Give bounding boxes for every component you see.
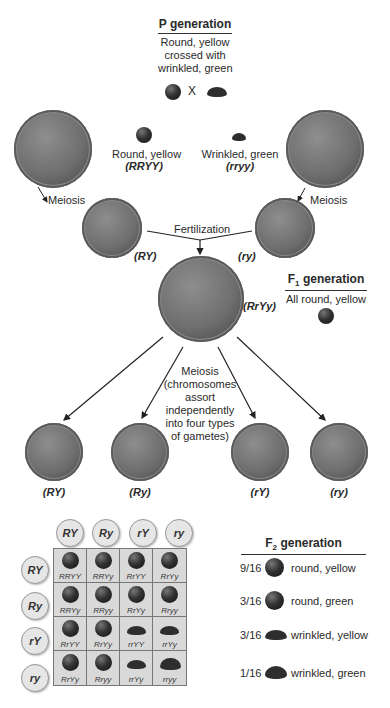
cell-genotype: RRYy	[54, 606, 86, 615]
gamete-label-1: (RY)	[42, 486, 66, 499]
meiosis2-line1: Meiosis	[160, 365, 240, 378]
punnett-square: RRYY RRYy RrYY RrYy RRYy RRyy RrYy Rryy …	[53, 548, 187, 686]
punnett-cell: RrYY	[120, 549, 153, 583]
cell-genotype: RrYY	[120, 572, 152, 581]
f1-heading-rest: generation	[300, 272, 365, 286]
round-pea-icon	[128, 552, 145, 569]
f2-phenotype: round, yellow	[291, 562, 356, 575]
punnett-cell: Rryy	[153, 583, 186, 617]
punnett-cell: RrYy	[87, 617, 120, 651]
round-pea-icon	[265, 591, 284, 610]
punnett-cell: RRYY	[54, 549, 87, 583]
cell-genotype: RrYy	[54, 675, 86, 684]
cell-genotype: RrYY	[54, 640, 86, 649]
punnett-cell: rrYy	[153, 617, 186, 651]
zygote-cell-icon	[158, 256, 244, 342]
wrinkled-pea-icon	[265, 666, 287, 679]
gamete-ry-cell-icon	[310, 423, 368, 481]
punnett-row-header: RY	[21, 556, 49, 584]
round-pea-icon	[128, 586, 145, 603]
round-pea-icon	[62, 654, 79, 671]
f2-heading-rest: generation	[277, 536, 342, 550]
meiosis-left-label: Meiosis	[48, 194, 85, 207]
f2-generation-block: F2 generation	[241, 536, 366, 555]
cell-genotype: RrYy	[120, 606, 152, 615]
meiosis-independent-assortment-text: Meiosis (chromosomes assort independentl…	[160, 365, 240, 443]
cell-genotype: Rryy	[153, 606, 186, 615]
round-pea-icon	[161, 586, 178, 603]
cell-genotype: RrYy	[87, 640, 119, 649]
wrinkled-pea-icon	[127, 626, 146, 635]
punnett-row-header: Ry	[21, 592, 49, 620]
gamete-cell-ry-lower-icon	[255, 198, 315, 258]
cell-genotype: Rryy	[87, 675, 119, 684]
punnett-col-header: RY	[56, 519, 84, 547]
cell-genotype: rrYY	[120, 640, 152, 649]
round-pea-icon	[161, 552, 178, 569]
left-gamete-label: (RY)	[134, 250, 156, 263]
f2-phenotype: wrinkled, yellow	[291, 629, 368, 642]
f2-phenotype: round, green	[291, 595, 353, 608]
f2-phenotype: wrinkled, green	[291, 667, 366, 680]
p-generation-heading: P generation	[158, 17, 232, 34]
f2-fraction: 3/16	[240, 629, 261, 642]
wrinkled-pea-icon	[232, 133, 246, 141]
punnett-cell: RRYy	[54, 583, 87, 617]
cell-genotype: RRyy	[87, 606, 119, 615]
f1-desc: All round, yellow	[285, 293, 367, 306]
meiosis2-line3: assort	[160, 391, 240, 404]
f2-fraction: 3/16	[240, 595, 261, 608]
meiosis-right-label: Meiosis	[310, 194, 347, 207]
p-desc-line2: crossed with	[158, 49, 232, 62]
cell-genotype: RrYy	[153, 572, 186, 581]
cell-genotype: rrYy	[120, 675, 152, 684]
f1-generation-heading: F1 generation	[285, 272, 367, 291]
punnett-cell: rryy	[153, 651, 186, 685]
punnett-row-header: ry	[21, 664, 49, 692]
cross-symbol: X	[188, 85, 196, 98]
round-pea-icon	[95, 620, 112, 637]
punnett-col-header: ry	[165, 519, 193, 547]
gamete-RY-cell-icon	[25, 423, 83, 481]
p-desc-line3: wrinkled, green	[158, 62, 232, 75]
wrinkled-pea-icon	[160, 626, 179, 635]
cell-genotype: rrYy	[153, 640, 186, 649]
gamete-label-4: (ry)	[327, 486, 351, 499]
f1-heading-main: F	[288, 272, 295, 286]
wrinkled-pea-icon	[127, 660, 146, 669]
cell-genotype: rryy	[153, 675, 186, 684]
round-pea-icon	[62, 620, 79, 637]
punnett-cell: rrYy	[120, 651, 153, 685]
f2-fraction: 1/16	[240, 667, 261, 680]
punnett-cell: RRyy	[87, 583, 120, 617]
round-pea-icon	[265, 558, 284, 577]
round-pea-icon	[62, 586, 79, 603]
punnett-cell: RrYy	[120, 583, 153, 617]
round-pea-icon	[62, 552, 79, 569]
punnett-cell: Rryy	[87, 651, 120, 685]
gamete-rY-cell-icon	[231, 423, 289, 481]
fertilization-label: Fertilization	[174, 223, 230, 236]
p-desc-line1: Round, yellow	[158, 36, 232, 49]
round-pea-icon	[95, 552, 112, 569]
cell-genotype: RRYY	[54, 572, 86, 581]
left-parent-genotype: (RRYY)	[112, 160, 176, 173]
f2-generation-heading: F2 generation	[241, 536, 366, 555]
right-gamete-label: (ry)	[238, 250, 256, 263]
gamete-label-3: (rY)	[248, 486, 272, 499]
punnett-cell: RRYy	[87, 549, 120, 583]
parent-cell-left-icon	[14, 110, 92, 188]
round-pea-icon	[95, 654, 112, 671]
punnett-cell: RrYy	[54, 651, 87, 685]
meiosis2-line6: of gametes)	[160, 430, 240, 443]
meiosis2-line2: (chromosomes	[160, 378, 240, 391]
zygote-genotype: (RrYy)	[243, 300, 276, 313]
punnett-col-header: Ry	[92, 519, 120, 547]
punnett-cell: RrYY	[54, 617, 87, 651]
wrinkled-pea-icon	[160, 658, 181, 670]
round-pea-icon	[165, 84, 181, 100]
wrinkled-pea-icon	[207, 87, 227, 97]
punnett-cell: rrYY	[120, 617, 153, 651]
punnett-col-header: rY	[129, 519, 157, 547]
round-pea-icon	[95, 586, 112, 603]
